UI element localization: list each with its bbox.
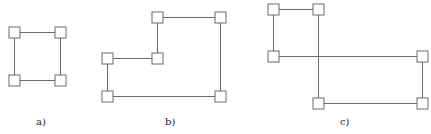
node-square [152, 53, 163, 64]
node-square [55, 75, 66, 86]
figure-label: a) [36, 116, 46, 127]
node-square [313, 98, 324, 109]
node-square [215, 91, 226, 102]
node-square [313, 4, 324, 15]
node-square [102, 53, 113, 64]
node-square [417, 98, 428, 109]
figure-label: b) [165, 116, 175, 127]
node-square [417, 51, 428, 62]
figure-label: c) [340, 116, 350, 127]
node-square [102, 91, 113, 102]
node-square [215, 12, 226, 23]
figure-c: c) [268, 4, 428, 127]
node-square [9, 75, 20, 86]
node-square [152, 12, 163, 23]
node-square [55, 27, 66, 38]
node-square [268, 4, 279, 15]
figure-a: a) [9, 27, 66, 127]
figure-b: b) [102, 12, 226, 127]
node-square [268, 51, 279, 62]
node-square [9, 27, 20, 38]
diagram-canvas: a)b)c) [0, 0, 431, 134]
